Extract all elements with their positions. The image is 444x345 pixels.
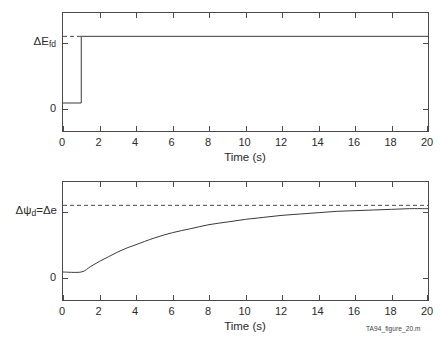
xtick-label-top: 20	[412, 136, 442, 148]
ytick-label-zero-bottom: 0	[34, 271, 56, 283]
xtick-label-bottom: 16	[339, 305, 369, 317]
series-delta-psi-d-response	[63, 182, 430, 302]
xtick-label-bottom: 18	[376, 305, 406, 317]
xtick-label-bottom: 6	[157, 305, 187, 317]
xtick-label-bottom: 20	[412, 305, 442, 317]
ylabel-top-subscript: fd	[49, 39, 56, 49]
ylabel-bottom-tail: =Δe	[36, 204, 57, 216]
plot-panel-delta-psi-d: Δψd=Δe 0 0 2 4 6 8 10 12 14 16 18 20 Tim…	[0, 172, 444, 345]
figure-source-caption: TA94_figure_20.m	[366, 325, 421, 332]
xtick-label-top: 6	[157, 136, 187, 148]
xtick-label-bottom: 8	[193, 305, 223, 317]
figure-canvas: ΔEfd 0 0 2 4 6 8 10 12 14 16 18 20 Time …	[0, 0, 444, 345]
xtick-label-bottom: 0	[47, 305, 77, 317]
axes-frame-bottom	[62, 181, 429, 301]
ylabel-bottom-subscript: d	[31, 208, 36, 218]
xlabel-bottom-panel: Time (s)	[185, 320, 305, 332]
ylabel-bottom-panel: Δψd=Δe	[0, 204, 57, 216]
ylabel-bottom-base: Δψ	[16, 204, 32, 216]
xtick-label-top: 12	[266, 136, 296, 148]
xtick-label-top: 16	[339, 136, 369, 148]
xtick-label-top: 2	[84, 136, 114, 148]
series-delta-efd-step	[63, 13, 430, 133]
response-path	[63, 209, 428, 273]
xtick-label-bottom: 2	[84, 305, 114, 317]
xtick-label-top: 18	[376, 136, 406, 148]
ylabel-top-panel: ΔEfd	[0, 35, 56, 47]
xtick-label-bottom: 10	[230, 305, 260, 317]
xtick-label-top: 0	[47, 136, 77, 148]
xtick-label-bottom: 4	[120, 305, 150, 317]
xtick-label-bottom: 14	[303, 305, 333, 317]
xtick-label-top: 10	[230, 136, 260, 148]
xtick-label-top: 4	[120, 136, 150, 148]
response-path	[63, 36, 428, 103]
ytick-label-zero-top: 0	[34, 102, 56, 114]
axes-frame-top	[62, 12, 429, 132]
ylabel-top-base: ΔE	[34, 35, 49, 47]
xtick-label-top: 14	[303, 136, 333, 148]
plot-panel-delta-efd: ΔEfd 0 0 2 4 6 8 10 12 14 16 18 20 Time …	[0, 0, 444, 172]
xtick-label-top: 8	[193, 136, 223, 148]
xlabel-top-panel: Time (s)	[185, 151, 305, 163]
xtick-label-bottom: 12	[266, 305, 296, 317]
